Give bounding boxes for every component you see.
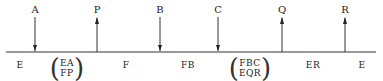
segment-label-fb: FB: [181, 61, 195, 70]
stacked-top: EA: [60, 58, 74, 68]
stacked-bottom: EQR: [239, 68, 261, 78]
event-label-a: A: [31, 5, 38, 15]
stacked-top: FBC: [239, 58, 260, 68]
event-label-p: P: [94, 5, 101, 15]
stacked-label-ea-fp: ( EA FP ): [50, 55, 84, 81]
event-label-b: B: [156, 5, 163, 15]
stacked-label-fbc-eqr: ( FBC EQR ): [229, 55, 272, 81]
segment-label-er: ER: [306, 61, 320, 70]
event-label-c: C: [214, 5, 222, 15]
segment-label-e-end: E: [358, 61, 365, 70]
right-paren: ): [261, 55, 271, 81]
left-paren: (: [229, 55, 239, 81]
left-paren: (: [50, 55, 60, 81]
right-paren: ): [74, 55, 84, 81]
event-label-r: R: [341, 5, 349, 15]
segment-label-f: F: [123, 61, 130, 70]
segment-label-e-start: E: [16, 61, 23, 70]
stacked-bottom: FP: [60, 68, 73, 78]
event-label-q: Q: [278, 5, 286, 15]
